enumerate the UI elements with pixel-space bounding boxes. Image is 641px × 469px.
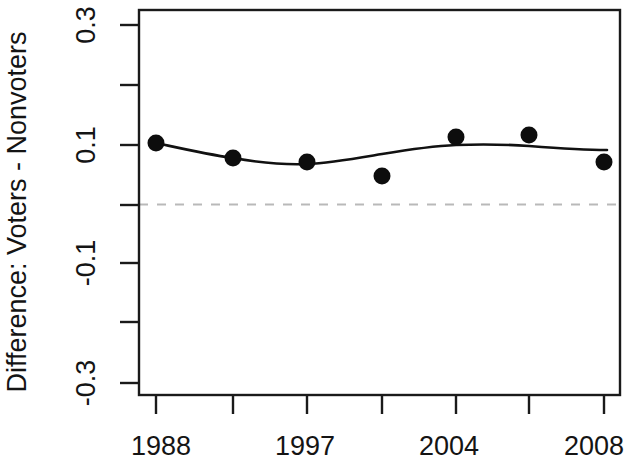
y-axis-title: Difference: Voters - Nonvoters	[2, 31, 32, 392]
x-tick-label-2: 2004	[419, 431, 479, 461]
data-point	[299, 154, 316, 171]
scatter-plot-canvas: 0.3 0.1 -0.1 -0.3 1988 1997 2004 2008 Di…	[0, 0, 641, 469]
y-tick-label-0: 0.3	[71, 6, 101, 44]
y-tick-label-2: -0.1	[71, 240, 101, 287]
x-axis-ticks	[156, 395, 604, 414]
data-point	[225, 150, 242, 167]
data-point	[596, 154, 613, 171]
x-tick-label-3: 2008	[564, 431, 624, 461]
chart-figure: 0.3 0.1 -0.1 -0.3 1988 1997 2004 2008 Di…	[0, 0, 641, 469]
x-tick-label-0: 1988	[131, 431, 191, 461]
y-tick-label-1: 0.1	[71, 126, 101, 164]
y-tick-label-3: -0.3	[71, 360, 101, 407]
data-point	[448, 129, 465, 146]
x-tick-label-1: 1997	[275, 431, 335, 461]
y-axis-ticks	[120, 25, 139, 383]
plot-area-background	[139, 10, 620, 395]
data-point	[521, 127, 538, 144]
data-point	[148, 135, 165, 152]
data-point	[374, 168, 391, 185]
